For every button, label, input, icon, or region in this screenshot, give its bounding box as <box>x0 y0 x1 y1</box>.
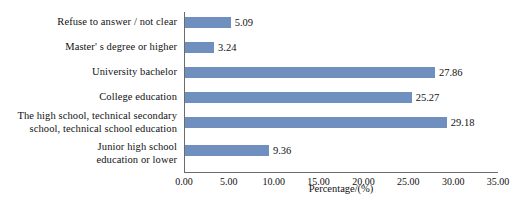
value-label-high-school: 29.18 <box>451 117 475 128</box>
value-label-college-education: 25.27 <box>416 92 440 103</box>
category-label-refuse-to-answer: Refuse to answer / not clear <box>57 16 177 29</box>
category-label-university-bachelor: University bachelor <box>92 66 177 79</box>
bar-university-bachelor <box>185 67 435 78</box>
value-label-junior-high-school: 9.36 <box>273 145 291 156</box>
category-label-junior-high-school: Junior high school education or lower <box>96 141 177 166</box>
bar-high-school <box>185 117 447 128</box>
bar-master-degree <box>185 42 214 53</box>
bar-refuse-to-answer <box>185 17 231 28</box>
value-label-master-degree: 3.24 <box>218 42 236 53</box>
bar-junior-high-school <box>185 145 269 156</box>
x-axis-title: Percentage/(%) <box>184 183 498 194</box>
bar-chart: Refuse to answer / not clear Master' s d… <box>0 0 513 212</box>
plot-area: 5.09 3.24 27.86 25.27 29.18 9.36 0.00 5.… <box>184 12 498 172</box>
x-axis-line <box>184 172 498 173</box>
category-label-master-degree: Master' s degree or higher <box>65 41 177 54</box>
category-axis-labels: Refuse to answer / not clear Master' s d… <box>0 0 181 172</box>
category-label-college-education: College education <box>99 91 177 104</box>
bar-college-education <box>185 92 412 103</box>
value-label-university-bachelor: 27.86 <box>439 67 463 78</box>
category-label-high-school: The high school, technical secondary sch… <box>17 110 177 135</box>
value-label-refuse-to-answer: 5.09 <box>235 17 253 28</box>
